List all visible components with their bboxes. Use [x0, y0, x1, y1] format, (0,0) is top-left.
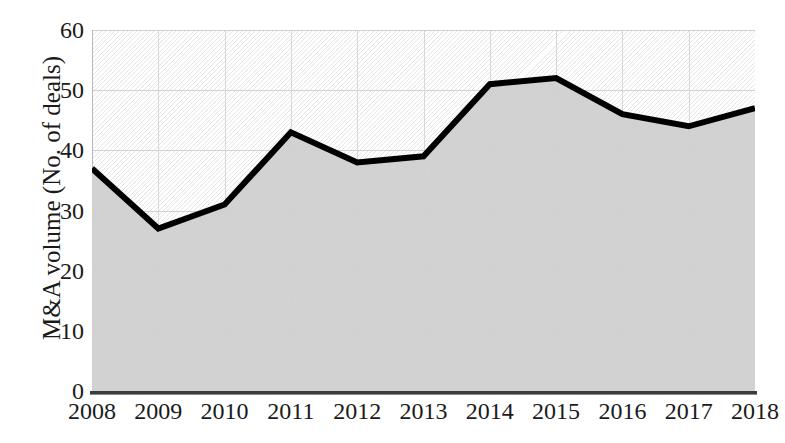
plot-area: [92, 30, 755, 391]
y-tick-label: 30: [38, 199, 84, 223]
clipped-chart-title: [120, 0, 660, 6]
x-axis-line: [90, 391, 757, 395]
x-axis-tick-labels: 2008200920102011201220132014201520162017…: [0, 398, 785, 438]
y-tick-label: 60: [38, 18, 84, 42]
y-tick-label: 10: [38, 319, 84, 343]
y-tick-label: 50: [38, 78, 84, 102]
series-area-line: [92, 30, 755, 391]
y-tick-label: 40: [38, 138, 84, 162]
y-axis-tick-labels: 0102030405060: [38, 0, 84, 443]
y-tick-label: 20: [38, 259, 84, 283]
area-fill-shape: [92, 78, 755, 391]
x-tick-label: 2018: [710, 398, 785, 424]
chart-container: M&A volume (No. of deals) 0102030405060 …: [0, 0, 785, 443]
